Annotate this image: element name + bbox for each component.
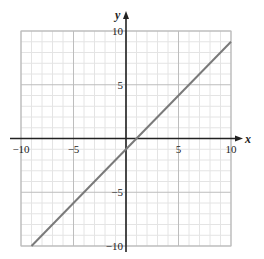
axes [10, 11, 243, 252]
y-axis-arrow-icon [123, 11, 129, 19]
line-series [32, 42, 232, 246]
x-axis-label: x [244, 132, 251, 146]
y-tick-label: 5 [118, 79, 124, 91]
x-axis-arrow-icon [235, 136, 243, 142]
coordinate-plane: −10−5510105−5−10 x y [0, 0, 264, 259]
x-tick-label: 10 [226, 143, 238, 155]
x-tick-label: 5 [176, 143, 182, 155]
y-tick-label: −10 [106, 240, 124, 252]
x-tick-label: −5 [68, 143, 80, 155]
y-tick-label: 10 [112, 25, 124, 37]
x-tick-label: −10 [12, 143, 30, 155]
data-line [32, 42, 232, 246]
y-tick-label: −5 [111, 186, 123, 198]
y-axis-label: y [113, 8, 121, 22]
